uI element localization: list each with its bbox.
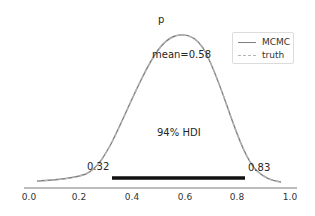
legend: MCMC truth [232,32,294,64]
hdi-low-label: 0.32 [87,162,109,172]
x-tick-label: 0.4 [125,193,139,202]
mean-annotation: mean=0.58 [152,50,211,60]
solid-line-icon [238,42,256,43]
plot-title: p [158,15,164,25]
hdi-label: 94% HDI [157,128,201,138]
dashed-line-icon [238,55,256,56]
legend-item-mcmc: MCMC [238,36,290,48]
x-tick-label: 0.8 [230,193,244,202]
hdi-high-label: 0.83 [248,163,270,173]
posterior-plot: p mean=0.58 94% HDI 0.32 0.83 0.0 0.2 0.… [0,0,315,216]
x-tick-label: 0.2 [72,193,86,202]
legend-label: truth [262,50,284,60]
x-tick-label: 1.0 [283,193,297,202]
legend-label: MCMC [262,37,290,47]
legend-item-truth: truth [238,49,284,61]
x-tick-label: 0.0 [22,193,36,202]
x-tick-label: 0.6 [178,193,192,202]
